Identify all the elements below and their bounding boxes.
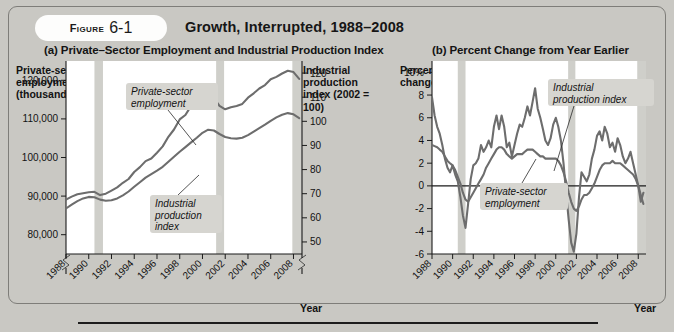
panel-a-y-left-ticklabel: 110,000 [23, 113, 59, 124]
figure-title: Growth, Interrupted, 1988–2008 [185, 19, 404, 35]
panel-a-y-left-ticklabel: 120,000 [22, 75, 59, 86]
panel-b-employment-callout-text: Private-sector [485, 186, 547, 197]
panel-b-x-ticklabel: 2008 [616, 257, 640, 281]
panel-a-y-right-ticklabel: 110 [310, 92, 326, 103]
panel-b-x-ticklabel: 1996 [492, 257, 516, 281]
panel-b-x-ticklabel: 1988 [410, 257, 434, 281]
panel-b-y-ticklabel: 10% [404, 67, 424, 78]
bottom-rule [78, 322, 598, 324]
panel-b-x-ticklabel: 1992 [451, 257, 475, 281]
figure-number-pill: Figure 6-1 [35, 15, 167, 41]
panel-b-chart: -6-4-20246810%19881990199219941996199820… [396, 55, 674, 305]
figure-title-bar: Figure 6-1 Growth, Interrupted, 1988–200… [9, 7, 665, 37]
panel-b-y-ticklabel: -6 [415, 249, 424, 260]
panel-b-y-ticklabel: 2 [418, 158, 424, 169]
panel-a-y-right-ticklabel: 50 [310, 236, 322, 247]
panel-b-y-ticklabel: 6 [418, 112, 424, 123]
panel-a-x-ticklabel: 2004 [226, 257, 250, 281]
panel-a-ip-callout-text: Industrial [155, 198, 196, 209]
panel-b-y-ticklabel: 0 [418, 180, 424, 191]
figure-number: 6-1 [109, 19, 132, 37]
panel-a-y-right-ticklabel: 90 [310, 140, 322, 151]
panel-a-x-ticklabel: 2008 [271, 257, 295, 281]
panel-a-y-right-ticklabel: 100 [310, 116, 327, 127]
panel-a-y-left-ticklabel: 80,000 [27, 229, 58, 240]
panel-b-x-ticklabel: 1990 [431, 257, 455, 281]
panel-a-ip-callout-text: production [154, 210, 202, 221]
panel-b-y-ticklabel: -2 [415, 203, 424, 214]
panel-a-x-ticklabel: 1990 [67, 257, 91, 281]
panel-a-ip-callout-text: index [155, 221, 180, 232]
panel-b-x-ticklabel: 2004 [575, 257, 599, 281]
panel-a-chart: 80,00090,000100,000110,000120,0005060708… [0, 55, 396, 305]
panel-a-x-ticklabel: 2002 [203, 257, 227, 281]
panel-b-y-ticklabel: 8 [418, 90, 424, 101]
panel-a-x-ticklabel: 1994 [112, 257, 136, 281]
figure-label-word: Figure [70, 22, 104, 34]
panel-b-ip-callout-text: production index [552, 94, 627, 105]
panel-a-y-right-ticklabel: 80 [310, 164, 322, 175]
recession-band-2 [292, 61, 302, 254]
panel-a-x-ticklabel: 1992 [89, 257, 113, 281]
panel-b-x-ticklabel: 1998 [513, 257, 537, 281]
panel-a-employment-callout-text: Private-sector [131, 86, 193, 97]
panel-a-x-ticklabel: 1998 [158, 257, 182, 281]
panel-a-y-right-ticklabel: 60 [310, 212, 322, 223]
panel-a-y-left-ticklabel: 100,000 [22, 152, 59, 163]
panel-a-y-right-ticklabel: 70 [310, 188, 322, 199]
panel-b-x-ticklabel: 2006 [596, 257, 620, 281]
panel-b-x-ticklabel: 2002 [554, 257, 578, 281]
panel-a-x-ticklabel: 1996 [135, 257, 159, 281]
panel-a-employment-callout-text: employment [131, 98, 187, 109]
panel-b-ip-callout-text: Industrial [553, 82, 594, 93]
panel-a-x-ticklabel: 2000 [180, 257, 204, 281]
panel-a-y-left-ticklabel: 90,000 [27, 191, 58, 202]
figure-root: Figure 6-1 Growth, Interrupted, 1988–200… [0, 0, 674, 332]
panel-b-y-ticklabel: 4 [418, 135, 424, 146]
panel-b-x-ticklabel: 1994 [472, 257, 496, 281]
recession-band-0 [94, 61, 103, 254]
panel-b-y-ticklabel: -4 [415, 226, 424, 237]
panel-b-x-ticklabel: 2000 [534, 257, 558, 281]
panel-a-y-right-ticklabel: 120 [310, 68, 327, 79]
panel-b-employment-callout-text: employment [485, 198, 541, 209]
panel-a-x-ticklabel: 2006 [249, 257, 273, 281]
